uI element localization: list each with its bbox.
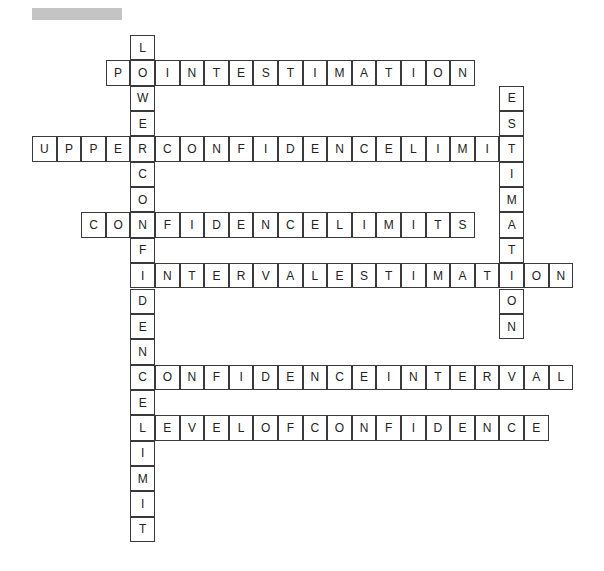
crossword-cell[interactable]: T [499,136,524,161]
crossword-cell[interactable]: N [253,212,278,237]
crossword-cell[interactable]: N [204,136,229,161]
crossword-cell[interactable]: L [401,136,426,161]
crossword-cell[interactable]: I [426,136,451,161]
crossword-cell[interactable]: S [352,263,377,288]
crossword-cell[interactable]: N [401,365,426,390]
crossword-cell[interactable]: I [130,263,155,288]
crossword-cell[interactable]: E [155,415,180,440]
crossword-cell[interactable]: I [130,441,155,466]
crossword-cell[interactable]: C [155,136,180,161]
crossword-cell[interactable]: O [130,60,155,85]
crossword-cell[interactable]: L [229,415,254,440]
crossword-cell[interactable]: U [32,136,57,161]
crossword-cell[interactable]: M [450,136,475,161]
crossword-cell[interactable]: O [106,212,131,237]
crossword-cell[interactable]: E [450,415,475,440]
crossword-cell[interactable]: T [376,60,401,85]
crossword-cell[interactable]: E [499,86,524,111]
crossword-cell[interactable]: A [524,365,549,390]
crossword-cell[interactable]: D [278,136,303,161]
crossword-cell[interactable]: T [204,60,229,85]
crossword-cell[interactable]: A [278,263,303,288]
crossword-cell[interactable]: N [180,365,205,390]
crossword-cell[interactable]: M [130,466,155,491]
crossword-cell[interactable]: O [130,187,155,212]
crossword-cell[interactable]: D [253,365,278,390]
crossword-cell[interactable]: I [401,263,426,288]
crossword-cell[interactable]: I [475,136,500,161]
crossword-cell[interactable]: I [303,60,328,85]
crossword-cell[interactable]: T [130,517,155,542]
crossword-cell[interactable]: R [229,263,254,288]
crossword-cell[interactable]: E [229,212,254,237]
crossword-cell[interactable]: L [549,365,574,390]
crossword-cell[interactable]: E [303,212,328,237]
crossword-cell[interactable]: F [229,136,254,161]
crossword-cell[interactable]: E [376,136,401,161]
crossword-cell[interactable]: C [278,212,303,237]
crossword-cell[interactable]: N [303,365,328,390]
crossword-cell[interactable]: I [401,415,426,440]
crossword-cell[interactable]: N [130,212,155,237]
crossword-cell[interactable]: M [426,263,451,288]
crossword-cell[interactable]: T [499,238,524,263]
crossword-cell[interactable]: S [499,111,524,136]
crossword-cell[interactable]: T [475,263,500,288]
crossword-cell[interactable]: I [229,365,254,390]
crossword-cell[interactable]: E [352,365,377,390]
crossword-cell[interactable]: F [376,415,401,440]
crossword-cell[interactable]: E [204,415,229,440]
crossword-cell[interactable]: I [401,212,426,237]
crossword-cell[interactable]: I [499,162,524,187]
crossword-cell[interactable]: E [130,314,155,339]
crossword-cell[interactable]: L [130,35,155,60]
crossword-cell[interactable]: I [401,60,426,85]
crossword-cell[interactable]: N [180,60,205,85]
crossword-cell[interactable]: O [180,136,205,161]
crossword-cell[interactable]: E [327,263,352,288]
crossword-cell[interactable]: T [426,212,451,237]
crossword-cell[interactable]: C [130,162,155,187]
crossword-cell[interactable]: V [499,365,524,390]
crossword-cell[interactable]: F [130,238,155,263]
crossword-cell[interactable]: N [549,263,574,288]
crossword-cell[interactable]: I [253,136,278,161]
crossword-cell[interactable]: L [327,212,352,237]
crossword-cell[interactable]: M [376,212,401,237]
crossword-cell[interactable]: L [130,415,155,440]
crossword-cell[interactable]: N [450,60,475,85]
crossword-cell[interactable]: P [81,136,106,161]
crossword-cell[interactable]: S [450,212,475,237]
crossword-cell[interactable]: E [303,136,328,161]
crossword-cell[interactable]: D [426,415,451,440]
crossword-cell[interactable]: E [229,60,254,85]
crossword-cell[interactable]: P [57,136,82,161]
crossword-cell[interactable]: O [426,60,451,85]
crossword-cell[interactable]: T [376,263,401,288]
crossword-cell[interactable]: I [155,60,180,85]
crossword-cell[interactable]: T [426,365,451,390]
crossword-cell[interactable]: T [180,263,205,288]
crossword-cell[interactable]: F [278,415,303,440]
crossword-cell[interactable]: I [376,365,401,390]
crossword-cell[interactable]: V [253,263,278,288]
crossword-cell[interactable]: R [130,136,155,161]
crossword-cell[interactable]: O [499,289,524,314]
crossword-cell[interactable]: N [352,415,377,440]
crossword-cell[interactable]: A [450,263,475,288]
crossword-cell[interactable]: V [180,415,205,440]
crossword-cell[interactable]: C [81,212,106,237]
crossword-cell[interactable]: P [106,60,131,85]
crossword-cell[interactable]: O [155,365,180,390]
crossword-cell[interactable]: I [180,212,205,237]
crossword-cell[interactable]: F [204,365,229,390]
crossword-cell[interactable]: N [499,314,524,339]
crossword-cell[interactable]: E [524,415,549,440]
crossword-cell[interactable]: T [278,60,303,85]
crossword-cell[interactable]: L [303,263,328,288]
crossword-cell[interactable]: O [253,415,278,440]
crossword-cell[interactable]: R [475,365,500,390]
crossword-cell[interactable]: F [155,212,180,237]
crossword-cell[interactable]: E [106,136,131,161]
crossword-cell[interactable]: N [155,263,180,288]
